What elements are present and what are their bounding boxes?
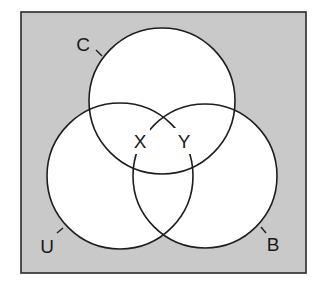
venn-svg: C U B X Y: [0, 0, 320, 284]
set-label-c: C: [76, 34, 90, 55]
venn-diagram: C U B X Y: [0, 0, 320, 284]
set-label-u: U: [40, 236, 54, 257]
region-label-x: X: [134, 131, 147, 152]
set-label-b: B: [267, 234, 280, 255]
region-label-y: Y: [178, 131, 191, 152]
